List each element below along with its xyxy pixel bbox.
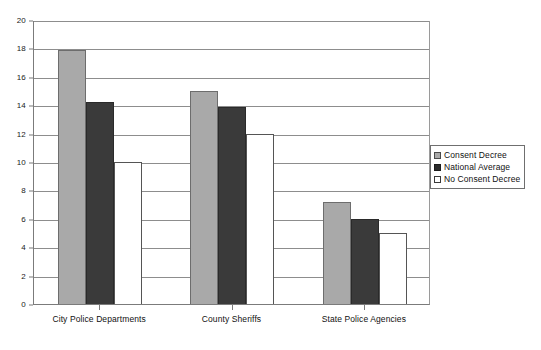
y-tick-label: 20 [17, 17, 26, 25]
legend: Consent DecreeNational AverageNo Consent… [430, 145, 525, 189]
y-tick-label: 6 [21, 216, 26, 224]
bar [190, 91, 218, 304]
bar [114, 162, 142, 304]
bar [323, 202, 351, 304]
y-tick-label: 4 [21, 244, 26, 252]
legend-swatch-icon [434, 176, 441, 183]
bar [86, 102, 114, 304]
legend-label: Consent Decree [444, 151, 507, 160]
bar-group [299, 21, 431, 304]
legend-swatch-icon [434, 164, 441, 171]
x-tick-label: City Police Departments [52, 314, 145, 324]
bar-group [34, 21, 166, 304]
bar-chart: 02468101214161820 City Police Department… [0, 0, 541, 350]
y-tick-label: 8 [21, 187, 26, 195]
x-tick-label: County Sheriffs [202, 314, 261, 324]
legend-item[interactable]: National Average [434, 161, 520, 173]
y-axis: 02468101214161820 [0, 0, 33, 350]
x-tick-mark [99, 305, 100, 310]
bar [218, 107, 246, 304]
bar [246, 134, 274, 304]
legend-label: National Average [444, 163, 510, 172]
y-tick-label: 18 [17, 45, 26, 53]
legend-item[interactable]: No Consent Decree [434, 173, 520, 185]
x-tick-mark [232, 305, 233, 310]
legend-item[interactable]: Consent Decree [434, 149, 520, 161]
x-axis: City Police DepartmentsCounty SheriffsSt… [33, 308, 430, 330]
bar [58, 50, 86, 304]
y-tick-label: 0 [21, 301, 26, 309]
y-tick-label: 2 [21, 273, 26, 281]
bar [379, 233, 407, 304]
bar [351, 219, 379, 304]
plot-area [33, 21, 430, 305]
legend-label: No Consent Decree [444, 175, 520, 184]
x-tick-mark [364, 305, 365, 310]
y-tick-label: 14 [17, 102, 26, 110]
y-tick-label: 16 [17, 74, 26, 82]
x-tick-label: State Police Agencies [322, 314, 406, 324]
legend-swatch-icon [434, 152, 441, 159]
bars-layer [34, 21, 429, 304]
bar-group [166, 21, 298, 304]
y-tick-label: 10 [17, 159, 26, 167]
y-tick-label: 12 [17, 131, 26, 139]
